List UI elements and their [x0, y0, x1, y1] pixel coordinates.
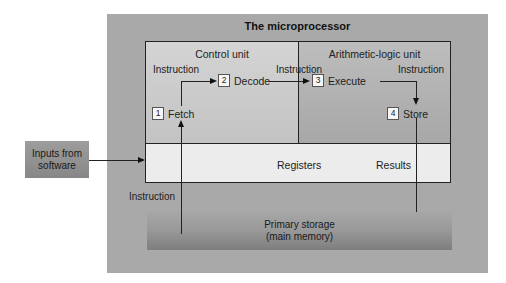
- step-number: 2: [218, 74, 230, 87]
- diagram-title: The microprocessor: [107, 20, 488, 32]
- inputs-from-software-box: Inputs from software: [25, 141, 89, 178]
- primary-storage-box: Primary storage (main memory): [147, 212, 452, 250]
- step-number: 3: [312, 74, 324, 87]
- inputs-line-1: Inputs from: [32, 148, 82, 160]
- arrow-fetch-to-decode-horizontal: [181, 81, 211, 82]
- step-label: Execute: [328, 75, 366, 87]
- step-store: 4 Store: [387, 107, 428, 120]
- step-label: Decode: [234, 75, 270, 87]
- step-number: 1: [152, 107, 164, 120]
- step-number: 4: [387, 107, 399, 120]
- arrow-right-icon: [210, 78, 217, 84]
- step-label: Fetch: [168, 108, 194, 120]
- control-unit-label: Control unit: [146, 48, 298, 60]
- step-decode: 2 Decode: [218, 74, 270, 87]
- registers-label: Registers: [277, 159, 321, 171]
- arrow-storage-to-fetch-tail: [181, 206, 182, 234]
- alu-label: Arithmetic-logic unit: [299, 48, 450, 60]
- arrow-storage-to-fetch: [181, 126, 182, 206]
- storage-line-1: Primary storage: [264, 219, 335, 231]
- flow-label-fetch-decode: Instruction: [153, 64, 199, 75]
- arrow-execute-to-store-horizontal: [380, 81, 416, 82]
- step-execute: 3 Execute: [312, 74, 366, 87]
- arrow-right-icon: [138, 157, 145, 163]
- step-fetch: 1 Fetch: [152, 107, 194, 120]
- arrow-decode-to-execute: [269, 81, 304, 82]
- flow-label-execute-store: Instruction: [398, 64, 444, 75]
- arrow-inputs-to-registers: [89, 160, 139, 161]
- inputs-line-2: software: [32, 160, 82, 172]
- arrow-right-icon: [303, 78, 310, 84]
- arrow-fetch-to-decode-vertical: [181, 81, 182, 106]
- arrow-down-icon: [413, 98, 419, 105]
- storage-line-2: (main memory): [266, 231, 333, 243]
- flow-label-storage-fetch: Instruction: [129, 191, 175, 202]
- flow-label-decode-execute: Instruction: [276, 64, 322, 75]
- arrow-up-icon: [178, 120, 184, 127]
- results-label: Results: [376, 159, 411, 171]
